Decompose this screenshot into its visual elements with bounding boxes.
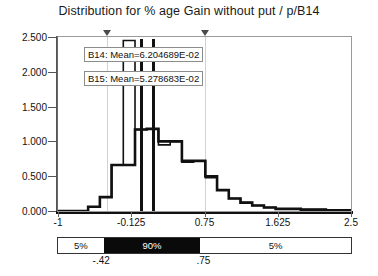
mean-line-B15 (152, 39, 155, 211)
x-tick-label: -1 (54, 217, 63, 228)
y-tick (48, 211, 56, 212)
x-tick-label: 0.75 (195, 217, 214, 228)
plot-inner (58, 37, 351, 211)
y-tick (48, 107, 56, 108)
certainty-lower-bound-label: -.42 (93, 255, 110, 266)
x-tick-label: -0.125 (117, 217, 145, 228)
certainty-bar[interactable]: 5% 90% 5% (57, 237, 352, 254)
y-tick (48, 72, 56, 73)
y-tick-label: 0.500 (22, 171, 47, 182)
y-tick (48, 141, 56, 142)
series-outline-B15 (58, 40, 351, 211)
chart-title: Distribution for % age Gain without put … (0, 4, 378, 18)
certainty-segment-lower: 5% (58, 238, 104, 253)
y-tick-label: 2.500 (22, 32, 47, 43)
plot-area (57, 36, 352, 212)
mean-callout-b15: B15: Mean=5.278683E-02 (84, 71, 203, 86)
y-tick (48, 176, 56, 177)
x-tick-label: 1.625 (265, 217, 290, 228)
x-tick-label: 2.5 (344, 217, 358, 228)
y-tick-label: 1.000 (22, 136, 47, 147)
frequency-chart: Distribution for % age Gain without put … (0, 0, 378, 276)
lower-percentile-marker-handle[interactable] (103, 30, 111, 36)
series-outline-B14 (58, 129, 351, 211)
certainty-segment-upper: 5% (200, 238, 351, 253)
y-tick-label: 2.000 (22, 66, 47, 77)
mean-callout-b14: B14: Mean=6.204689E-02 (84, 47, 203, 62)
y-tick-label: 0.000 (22, 206, 47, 217)
y-tick (48, 37, 56, 38)
y-tick-label: 1.500 (22, 101, 47, 112)
mean-line-B14 (140, 39, 143, 211)
upper-percentile-marker-handle[interactable] (201, 30, 209, 36)
histogram-series (58, 37, 351, 211)
certainty-upper-bound-label: .75 (197, 255, 211, 266)
certainty-segment-middle: 90% (104, 238, 200, 253)
